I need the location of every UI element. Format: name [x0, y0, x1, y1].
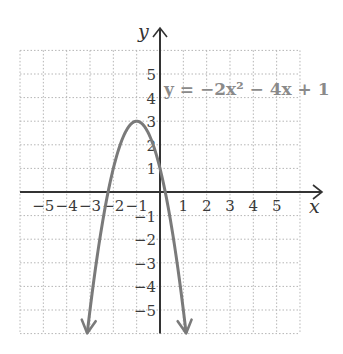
parabola-graph: −5−4−3−2−11234554321−1−2−3−4−5 x y y = −… [0, 0, 343, 354]
y-tick-label: −2 [134, 231, 156, 249]
x-axis-label: x [309, 195, 320, 217]
y-tick-label: 4 [146, 90, 156, 108]
x-tick-label: 4 [249, 197, 259, 215]
x-tick-label: 1 [179, 197, 189, 215]
y-axis-label: y [137, 20, 149, 42]
x-tick-label: −3 [79, 197, 101, 215]
y-tick-label: 3 [146, 113, 156, 131]
y-tick-label: −5 [134, 302, 156, 320]
y-tick-label: −4 [134, 278, 156, 296]
y-tick-label: −1 [134, 208, 156, 226]
x-tick-label: 3 [225, 197, 235, 215]
y-tick-label: 5 [146, 66, 156, 84]
y-tick-label: 1 [146, 160, 156, 178]
x-tick-label: 5 [272, 197, 282, 215]
x-tick-label: −4 [56, 197, 78, 215]
x-tick-label: −5 [32, 197, 54, 215]
x-tick-label: 2 [202, 197, 212, 215]
equation-label: y = −2x² − 4x + 1 [163, 79, 330, 99]
y-tick-label: −3 [134, 255, 156, 273]
